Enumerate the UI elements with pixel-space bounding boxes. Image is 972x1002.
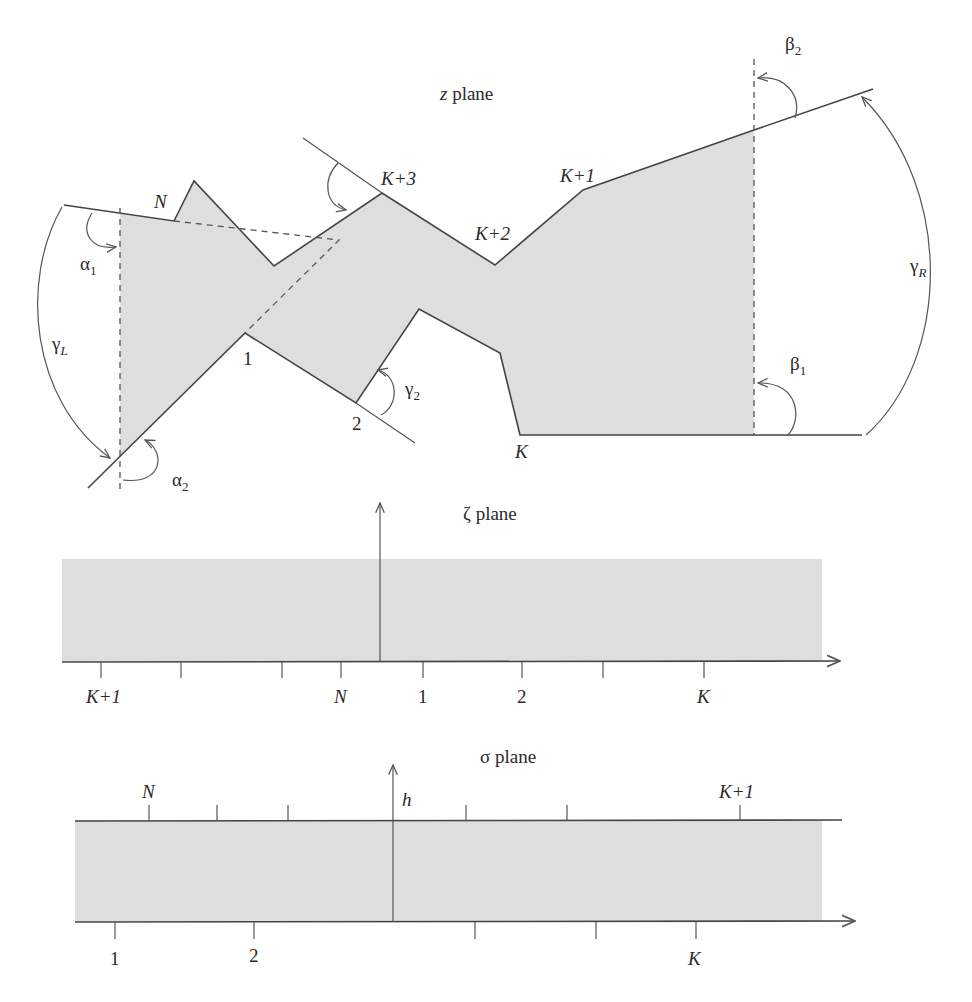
sigma-height-label-h: h (402, 789, 412, 810)
beta1-label: β1 (790, 353, 806, 378)
zeta-real-axis (62, 661, 840, 662)
sigma-plane-panel: σ plane h N K+1 1 2 K (75, 746, 855, 969)
alpha2-label: α2 (172, 469, 188, 494)
sigma-bottom-ticks (115, 922, 696, 939)
vertex-label-2: 2 (352, 413, 362, 434)
edge-extension-k3 (303, 138, 382, 193)
sigma-bottom-label-k: K (687, 948, 702, 969)
zeta-ticks (101, 662, 704, 678)
k3-angle-arrow (328, 163, 346, 210)
vertex-label-1: 1 (243, 348, 253, 369)
zeta-tick-label-2: 2 (517, 686, 527, 707)
zeta-tick-label-k: K (696, 686, 711, 707)
zeta-plane-title: ζ plane (463, 503, 517, 524)
gamma2-angle-arrow (378, 370, 394, 415)
gammaL-label: γL (51, 333, 68, 358)
gammaL-arc-arrow (38, 207, 110, 458)
zeta-plane-panel: ζ plane K+1 N 1 2 K (62, 503, 840, 707)
zeta-tick-label-n: N (333, 686, 348, 707)
sigma-top-boundary (75, 820, 842, 821)
gammaR-label: γR (909, 255, 926, 280)
alpha1-angle-arrow (87, 213, 116, 247)
alpha1-label: α1 (80, 253, 96, 278)
vertex-label-k: K (514, 441, 529, 462)
sigma-bottom-label-2: 2 (249, 945, 259, 966)
beta1-angle-arrow (758, 383, 796, 435)
sigma-strip (75, 821, 822, 921)
sigma-top-label-k1: K+1 (718, 781, 754, 802)
zeta-tick-label-1: 1 (418, 686, 428, 707)
vertex-label-n: N (153, 191, 168, 212)
z-plane-panel: z plane N K+3 K+2 K+1 1 2 K α1 α2 β2 β1 … (38, 33, 931, 494)
sigma-bottom-label-1: 1 (110, 948, 120, 969)
edge-extension-2 (356, 403, 415, 443)
sigma-top-ticks (149, 805, 740, 821)
z-plane-region (120, 130, 754, 456)
z-plane-title: z plane (439, 83, 493, 104)
beta2-angle-arrow (758, 78, 797, 118)
vertex-label-k2: K+2 (474, 223, 510, 244)
gamma2-label: γ2 (404, 378, 420, 403)
sigma-top-label-n: N (141, 781, 156, 802)
sigma-real-axis (75, 921, 855, 922)
beta2-label: β2 (785, 33, 801, 58)
conformal-map-diagram: z plane N K+3 K+2 K+1 1 2 K α1 α2 β2 β1 … (0, 0, 972, 1002)
zeta-strip (62, 559, 822, 661)
sigma-plane-title: σ plane (480, 746, 536, 767)
vertex-label-k3: K+3 (380, 168, 416, 189)
zeta-tick-label-k1: K+1 (85, 686, 121, 707)
vertex-label-k1: K+1 (559, 165, 595, 186)
